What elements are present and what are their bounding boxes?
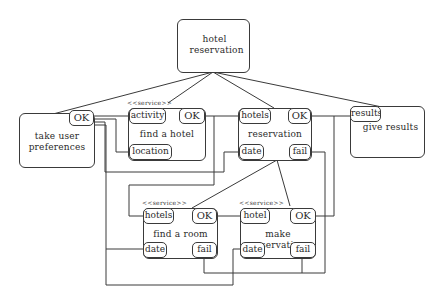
port-make-res-hotel[interactable]: hotel (240, 208, 270, 224)
label-line-2: preferences (20, 142, 94, 153)
root-label-text: hotel reservation (190, 34, 240, 56)
port-reservation-date[interactable]: date (239, 144, 264, 160)
node-label: take user preferences (20, 131, 94, 153)
root-node-hotel-reservation[interactable]: hotel reservation (177, 19, 250, 73)
port-find-room-date[interactable]: date (143, 242, 167, 258)
port-make-res-date[interactable]: date (240, 242, 265, 258)
node-label: find a hotel (129, 129, 205, 140)
port-find-hotel-location[interactable]: location (129, 144, 172, 160)
port-make-res-ok[interactable]: OK (290, 208, 316, 224)
port-reservation-ok[interactable]: OK (288, 108, 311, 124)
port-find-hotel-activity[interactable]: activity (129, 108, 166, 124)
diagram-canvas: hotel reservation take user preferences … (0, 0, 443, 299)
root-node-label: hotel reservation (178, 34, 251, 56)
stereotype-find-room: <<service>> (142, 199, 187, 206)
stereotype-make-reservation: <<service>> (239, 199, 284, 206)
port-make-res-fail[interactable]: fail (290, 242, 316, 258)
port-prefs-ok[interactable]: OK (69, 110, 94, 126)
port-find-room-ok[interactable]: OK (192, 208, 217, 224)
edge-root-results (213, 72, 382, 107)
label-line-1: take user (20, 131, 94, 142)
port-results[interactable]: results (350, 106, 381, 122)
port-find-hotel-ok[interactable]: OK (179, 108, 205, 124)
port-find-room-fail[interactable]: fail (192, 242, 217, 258)
node-label: reservation (239, 129, 311, 140)
node-label: give results (351, 122, 424, 133)
port-find-room-hotels[interactable]: hotels (143, 208, 174, 224)
edge-root-findhotel (168, 72, 213, 103)
edge-root-reservation (213, 72, 274, 108)
port-reservation-hotels[interactable]: hotels (239, 108, 271, 124)
stereotype-find-hotel: <<service>> (127, 99, 172, 106)
node-label: find a room (144, 229, 217, 240)
port-reservation-fail[interactable]: fail (289, 144, 311, 160)
